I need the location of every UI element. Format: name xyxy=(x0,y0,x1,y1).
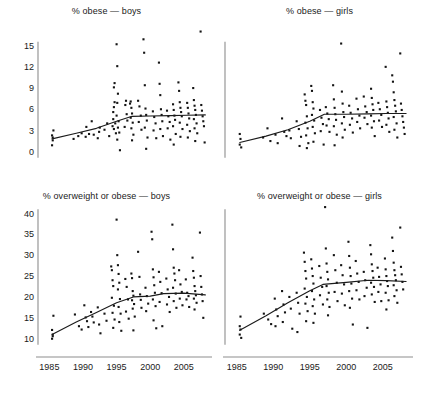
data-point xyxy=(144,84,146,86)
data-point xyxy=(352,132,354,134)
y-tick-label: 40 xyxy=(24,209,34,219)
data-point xyxy=(334,144,336,146)
x-tick-label: 1990 xyxy=(263,362,283,372)
data-point xyxy=(105,320,107,322)
data-point xyxy=(312,126,314,128)
data-point xyxy=(298,128,300,130)
data-point xyxy=(323,144,325,146)
data-point xyxy=(153,284,155,286)
data-point xyxy=(153,129,155,131)
data-point xyxy=(172,248,174,250)
data-point xyxy=(187,295,189,297)
data-point xyxy=(304,270,306,272)
data-point xyxy=(172,287,174,289)
data-point xyxy=(326,298,328,300)
data-point xyxy=(307,127,309,129)
data-point xyxy=(194,308,196,310)
data-point xyxy=(51,144,53,146)
data-point xyxy=(196,132,198,134)
data-point xyxy=(350,112,352,114)
data-point xyxy=(378,120,380,122)
data-point xyxy=(202,300,204,302)
data-point xyxy=(125,100,127,102)
data-point xyxy=(385,275,387,277)
data-point xyxy=(116,115,118,117)
data-point xyxy=(335,119,337,121)
data-point xyxy=(334,107,336,109)
data-point xyxy=(118,306,120,308)
data-point xyxy=(393,295,395,297)
data-point xyxy=(118,282,120,284)
data-point xyxy=(366,123,368,125)
y-tick-label: 35 xyxy=(24,229,34,239)
x-tick-label: 1985 xyxy=(227,362,247,372)
data-point xyxy=(370,88,372,90)
data-point xyxy=(112,111,114,113)
data-point xyxy=(347,241,349,243)
data-point xyxy=(52,315,54,317)
data-point xyxy=(384,257,386,259)
data-point xyxy=(179,122,181,124)
chart-figure: % obese — boys 03691215 % obese — girls … xyxy=(0,0,426,397)
data-point xyxy=(138,121,140,123)
plot-br: 19851990199520002005 xyxy=(213,185,426,397)
data-point xyxy=(119,149,121,151)
data-point xyxy=(320,130,322,132)
data-point xyxy=(194,105,196,107)
data-point xyxy=(305,104,307,106)
data-point xyxy=(239,144,241,146)
data-point xyxy=(175,307,177,309)
data-point xyxy=(340,264,342,266)
data-point xyxy=(400,266,402,268)
data-point xyxy=(171,224,173,226)
data-point xyxy=(393,269,395,271)
data-point xyxy=(132,329,134,331)
data-point xyxy=(91,120,93,122)
data-point xyxy=(83,304,85,306)
data-point xyxy=(274,298,276,300)
data-point xyxy=(187,136,189,138)
data-point xyxy=(178,90,180,92)
data-point xyxy=(357,108,359,110)
data-point xyxy=(158,271,160,273)
data-point xyxy=(189,130,191,132)
data-point xyxy=(78,325,80,327)
data-point xyxy=(52,335,54,337)
data-point xyxy=(200,104,202,106)
data-point xyxy=(342,103,344,105)
trend-line xyxy=(240,113,406,142)
data-point xyxy=(343,283,345,285)
data-point xyxy=(145,310,147,312)
data-point xyxy=(388,299,390,301)
data-point xyxy=(311,267,313,269)
data-point xyxy=(114,318,116,320)
data-point xyxy=(404,133,406,135)
data-point xyxy=(379,108,381,110)
data-point xyxy=(341,91,343,93)
data-point xyxy=(320,277,322,279)
data-point xyxy=(131,112,133,114)
data-point xyxy=(387,285,389,287)
data-point xyxy=(366,327,368,329)
data-point xyxy=(111,297,113,299)
data-point xyxy=(371,127,373,129)
data-point xyxy=(131,139,133,141)
data-point xyxy=(327,314,329,316)
data-point xyxy=(239,325,241,327)
data-point xyxy=(173,109,175,111)
data-point xyxy=(126,113,128,115)
data-point xyxy=(333,98,335,100)
data-point xyxy=(396,136,398,138)
data-point xyxy=(306,147,308,149)
data-point xyxy=(140,129,142,131)
data-point xyxy=(51,329,53,331)
data-point xyxy=(194,285,196,287)
data-point xyxy=(377,291,379,293)
data-point xyxy=(284,311,286,313)
data-point xyxy=(393,284,395,286)
data-point xyxy=(306,296,308,298)
data-point xyxy=(340,42,342,44)
data-point xyxy=(336,300,338,302)
data-point xyxy=(193,277,195,279)
data-point xyxy=(74,313,76,315)
